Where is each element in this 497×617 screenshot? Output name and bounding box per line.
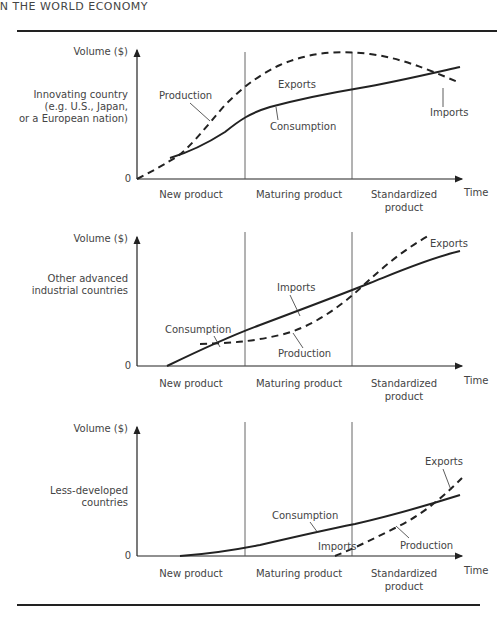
stage-label-standardized: Standardized: [371, 378, 437, 389]
annotation-exports: Exports: [278, 79, 316, 90]
stage-label-maturing: Maturing product: [256, 378, 342, 389]
annotation-imports: Imports: [318, 541, 356, 552]
country-label: countries: [82, 497, 128, 508]
origin-label: 0: [125, 360, 131, 371]
y-axis-label: Volume ($): [73, 46, 128, 57]
x-axis-label: Time: [463, 375, 488, 386]
annotation-consumption: Consumption: [165, 324, 231, 335]
country-label: or a European nation): [19, 113, 128, 124]
stage-label-new: New product: [159, 189, 223, 200]
annotation-exports: Exports: [425, 456, 463, 467]
stage-label-standardized: product: [385, 581, 424, 592]
x-axis-label: Time: [463, 565, 488, 576]
country-label: (e.g. U.S., Japan,: [45, 101, 128, 112]
annotation-exports: Exports: [430, 238, 468, 249]
chart-less-developed-countries: Volume ($) 0 Less-developed countries Co…: [50, 422, 488, 592]
country-label: Innovating country: [33, 89, 128, 100]
stage-label-standardized: product: [385, 202, 424, 213]
annotation-production: Production: [400, 540, 453, 551]
stage-label-standardized: Standardized: [371, 189, 437, 200]
stage-label-maturing: Maturing product: [256, 568, 342, 579]
annotation-consumption: Consumption: [270, 121, 336, 132]
annotation-imports: Imports: [277, 282, 315, 293]
production-line: [137, 52, 460, 179]
chart-other-advanced-countries: Volume ($) 0 Other advanced industrial c…: [32, 232, 489, 402]
annotation-imports: Imports: [430, 107, 468, 118]
stage-label-maturing: Maturing product: [256, 189, 342, 200]
stage-label-standardized: Standardized: [371, 568, 437, 579]
stage-label-new: New product: [159, 568, 223, 579]
origin-label: 0: [125, 550, 131, 561]
origin-label: 0: [125, 173, 131, 184]
annotation-production: Production: [278, 348, 331, 359]
product-life-cycle-charts: Volume ($) 0 Innovating country (e.g. U.…: [0, 0, 497, 617]
annotation-consumption: Consumption: [272, 510, 338, 521]
stage-label-new: New product: [159, 378, 223, 389]
country-label: Less-developed: [50, 485, 128, 496]
country-label: Other advanced: [48, 273, 128, 284]
y-axis-label: Volume ($): [73, 423, 128, 434]
annotation-production: Production: [159, 90, 212, 101]
y-axis-label: Volume ($): [73, 233, 128, 244]
stage-label-standardized: product: [385, 391, 424, 402]
chart-innovating-country: Volume ($) 0 Innovating country (e.g. U.…: [19, 46, 489, 213]
x-axis-label: Time: [463, 187, 488, 198]
country-label: industrial countries: [32, 285, 128, 296]
